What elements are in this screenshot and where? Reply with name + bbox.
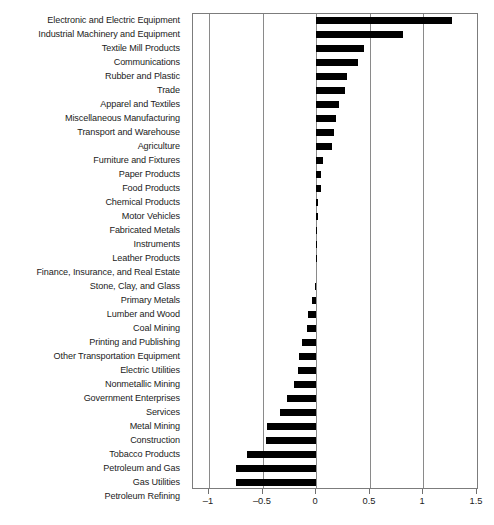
bar [247,451,317,458]
x-tick-mark [369,489,370,494]
category-label: Fabricated Metals [0,223,184,237]
bar [316,185,320,192]
bar [316,143,332,150]
category-label: Petroleum and Gas [0,461,184,475]
bar [294,381,317,388]
category-label: Miscellaneous Manufacturing [0,111,184,125]
category-label: Apparel and Textiles [0,97,184,111]
bar [316,241,317,248]
bar [316,129,334,136]
bar [316,227,317,234]
bar-row [193,266,477,280]
bar-row [193,350,477,364]
x-tick-label: 1.5 [470,496,483,506]
bar-row [193,294,477,308]
bar [298,367,316,374]
bar [316,157,322,164]
bar-row [193,84,477,98]
bar [316,199,318,206]
bar [307,325,317,332]
bar [316,171,320,178]
bar [315,283,316,290]
category-label: Paper Products [0,167,184,181]
category-label: Instruments [0,237,184,251]
category-label: Nonmetallic Mining [0,377,184,391]
x-tick-label: –1 [203,496,213,506]
category-label: Agriculture [0,139,184,153]
bar [316,17,452,24]
bar-row [193,252,477,266]
category-label: Services [0,405,184,419]
category-label: Furniture and Fixtures [0,153,184,167]
bar-row [193,196,477,210]
category-label: Construction [0,433,184,447]
category-label: Industrial Machinery and Equipment [0,27,184,41]
category-label: Primary Metals [0,293,184,307]
bar-row [193,322,477,336]
x-tick-mark [422,489,423,494]
category-label: Transport and Warehouse [0,125,184,139]
plot-area [192,13,478,489]
bar-row [193,14,477,28]
bar-row [193,126,477,140]
bar [316,59,358,66]
bar-row [193,70,477,84]
x-tick-mark [476,489,477,494]
category-label: Coal Mining [0,321,184,335]
bar [316,73,347,80]
bar-row [193,140,477,154]
category-label: Trade [0,83,184,97]
bar [316,213,318,220]
bar-row [193,28,477,42]
x-tick-mark [262,489,263,494]
x-tick-label: 0 [312,496,317,506]
bar [302,339,316,346]
category-label: Metal Mining [0,419,184,433]
horizontal-bar-chart: Electronic and Electric EquipmentIndustr… [0,0,494,525]
bar [266,437,316,444]
x-tick-mark [208,489,209,494]
category-label: Chemical Products [0,195,184,209]
category-label: Petroleum Refining [0,489,184,503]
category-label: Finance, Insurance, and Real Estate [0,265,184,279]
bar-row [193,168,477,182]
bar [316,115,335,122]
bar [236,465,316,472]
bar-row [193,462,477,476]
bar [316,255,317,262]
bar-row [193,434,477,448]
category-label: Motor Vehicles [0,209,184,223]
bar-row [193,280,477,294]
bar-row [193,406,477,420]
bar-row [193,476,477,489]
x-axis: –1–0.500.511.5 [192,489,478,519]
bar-row [193,238,477,252]
bar [316,101,339,108]
x-tick-label: –0.5 [253,496,271,506]
category-label: Stone, Clay, and Glass [0,279,184,293]
bar-row [193,182,477,196]
category-label: Other Transportation Equipment [0,349,184,363]
bar-row [193,448,477,462]
category-label: Textile Mill Products [0,41,184,55]
x-tick-label: 0.5 [363,496,376,506]
category-label: Government Enterprises [0,391,184,405]
bar-row [193,364,477,378]
bar [316,45,364,52]
bars-layer [193,14,477,488]
bar-row [193,42,477,56]
bar-row [193,420,477,434]
bar-row [193,154,477,168]
bar [308,311,317,318]
category-label: Gas Utilities [0,475,184,489]
category-label: Leather Products [0,251,184,265]
category-label: Printing and Publishing [0,335,184,349]
x-tick-mark [315,489,316,494]
bar-row [193,308,477,322]
bar-row [193,98,477,112]
category-label: Rubber and Plastic [0,69,184,83]
category-label: Electric Utilities [0,363,184,377]
bar-row [193,378,477,392]
bar-row [193,336,477,350]
x-tick-label: 1 [419,496,424,506]
